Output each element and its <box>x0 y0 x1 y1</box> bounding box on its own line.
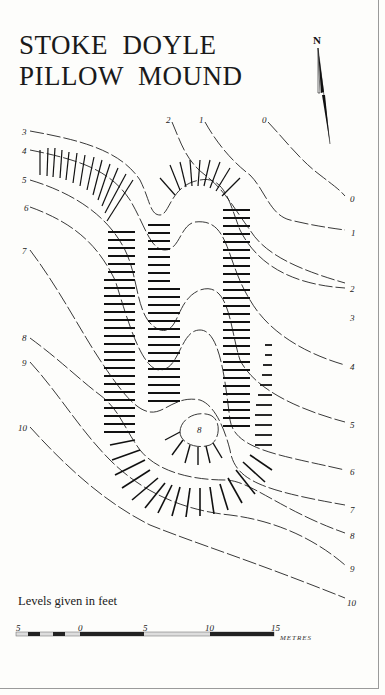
scale-tick-label: 5 <box>143 623 148 633</box>
hachures <box>40 148 272 517</box>
contour-label: 9 <box>22 358 27 368</box>
contour-label: 10 <box>18 423 27 433</box>
contour-label: 3 <box>22 127 27 137</box>
contour-lines <box>30 122 345 598</box>
contour-label: 8 <box>350 531 355 541</box>
contour-label: 3 <box>350 313 355 323</box>
spot-height-label: 8 <box>197 425 202 435</box>
contour-label: 9 <box>350 564 355 574</box>
contour-label: 5 <box>350 420 355 430</box>
contour-label: 2 <box>350 284 355 294</box>
scale-tick-label: 15 <box>271 623 280 633</box>
scale-tick-label: 5 <box>16 623 21 633</box>
scale-tick-label: 0 <box>78 623 83 633</box>
scale-unit: METRES <box>280 634 312 642</box>
contour-label: 4 <box>22 146 27 156</box>
contour-label: 6 <box>24 203 29 213</box>
contour-label: 0 <box>262 115 267 125</box>
north-arrow-icon <box>318 48 330 144</box>
legend-text: Levels given in feet <box>18 594 117 609</box>
contour-label: 1 <box>351 228 356 238</box>
contour-label: 6 <box>350 467 355 477</box>
site-plan <box>0 0 385 695</box>
contour-label: 0 <box>350 194 355 204</box>
contour-label: 5 <box>22 175 27 185</box>
contour-label: 4 <box>350 362 355 372</box>
contour-label: 7 <box>350 505 355 515</box>
contour-label: 7 <box>22 246 27 256</box>
contour-label: 8 <box>22 333 27 343</box>
contour-label: 2 <box>166 115 171 125</box>
contour-label: 10 <box>347 598 356 608</box>
contour-label: 1 <box>199 115 204 125</box>
scale-tick-label: 10 <box>205 623 214 633</box>
